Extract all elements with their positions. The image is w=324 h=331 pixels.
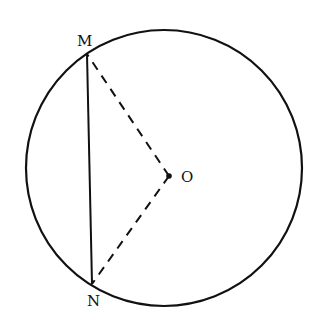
label-m: M (77, 32, 92, 50)
circle-chord-diagram: M N O (0, 0, 324, 331)
radius-on (92, 176, 169, 284)
label-n: N (87, 292, 100, 310)
chord-mn (87, 54, 92, 284)
circle (26, 30, 302, 306)
radius-om (87, 54, 169, 176)
label-o: O (181, 168, 193, 186)
center-point-o (166, 173, 172, 179)
